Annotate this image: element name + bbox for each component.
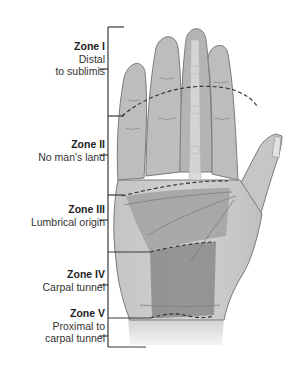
index-finger — [208, 45, 238, 180]
zone-5-title: Zone V — [45, 307, 105, 320]
zone-3-label: Zone III Lumbrical origin — [31, 203, 105, 228]
zone-1-label: Zone I Distal to sublimis — [55, 40, 105, 78]
little-finger — [117, 63, 146, 180]
zone-3-title: Zone III — [31, 203, 105, 216]
zone-4-title: Zone IV — [43, 268, 105, 281]
flexor-tendon — [189, 40, 201, 180]
zone-1-desc-line-2: to sublimis — [55, 65, 105, 78]
zone-1-title: Zone I — [55, 40, 105, 53]
zone-2-title: Zone II — [38, 138, 105, 151]
zone-5-desc-line-2: carpal tunnel — [45, 332, 105, 345]
zone-3-desc-line-1: Lumbrical origin — [31, 216, 105, 229]
wrist — [128, 318, 224, 345]
zone-2-label: Zone II No man's land — [38, 138, 105, 163]
zone-4-label: Zone IV Carpal tunnel — [43, 268, 105, 293]
zone-1-desc-line-1: Distal — [55, 53, 105, 66]
zone-5-label: Zone V Proximal to carpal tunnel — [45, 307, 105, 345]
zone-2-desc-line-1: No man's land — [38, 151, 105, 164]
zone-5-desc-line-1: Proximal to — [45, 320, 105, 333]
ring-finger — [146, 37, 181, 176]
zone-4-desc-line-1: Carpal tunnel — [43, 281, 105, 294]
